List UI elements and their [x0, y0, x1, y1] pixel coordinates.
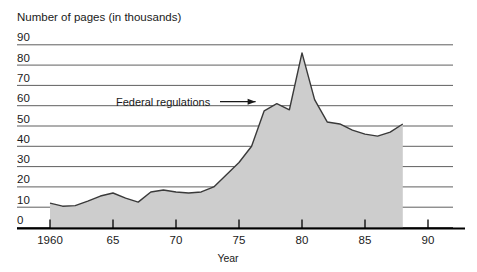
y-tick-label-70: 70: [17, 72, 30, 84]
area-fill: [50, 53, 403, 228]
annotation-label: Federal regulations: [116, 96, 211, 108]
y-tick-label-10: 10: [17, 194, 30, 206]
chart-title: Number of pages (in thousands): [17, 11, 181, 23]
y-tick-label-0: 0: [17, 214, 23, 226]
data-area-group: [50, 53, 403, 228]
x-tick-label-1960: 1960: [37, 234, 63, 246]
x-tick-label-70: 70: [170, 234, 183, 246]
x-axis-title: Year: [217, 252, 239, 264]
federal-regulations-area-chart: Number of pages (in thousands) 010203040…: [0, 0, 477, 272]
x-tick-label-75: 75: [233, 234, 246, 246]
y-tick-label-60: 60: [17, 92, 30, 104]
y-tick-label-50: 50: [17, 113, 30, 125]
x-tick-label-80: 80: [296, 234, 309, 246]
y-axis-tick-labels: 0102030405060708090: [17, 31, 30, 226]
y-tick-label-40: 40: [17, 133, 30, 145]
x-tick-label-90: 90: [422, 234, 435, 246]
x-tick-label-85: 85: [359, 234, 372, 246]
y-tick-label-20: 20: [17, 173, 30, 185]
y-tick-label-30: 30: [17, 153, 30, 165]
annotation-arrow-icon: [248, 99, 256, 105]
y-tick-label-80: 80: [17, 52, 30, 64]
x-tick-label-65: 65: [107, 234, 120, 246]
y-tick-label-90: 90: [17, 31, 30, 43]
x-axis-tick-labels: 1960657075808590: [37, 234, 434, 246]
chart-container: Number of pages (in thousands) 010203040…: [0, 0, 477, 272]
